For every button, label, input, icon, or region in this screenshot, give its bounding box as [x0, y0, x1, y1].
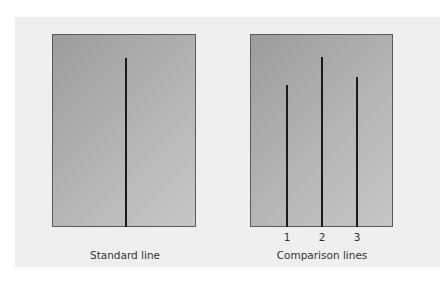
comparison-lines-label: Comparison lines — [270, 249, 374, 261]
comparison-number-1: 1 — [281, 231, 293, 243]
standard-line-label: Standard line — [75, 249, 175, 261]
comparison-card — [250, 34, 393, 227]
standard-line — [125, 58, 127, 227]
comparison-line-2 — [321, 57, 323, 227]
comparison-line-3 — [356, 77, 358, 227]
comparison-number-2: 2 — [316, 231, 328, 243]
standard-card — [52, 34, 196, 227]
comparison-number-3: 3 — [351, 231, 363, 243]
comparison-line-1 — [286, 85, 288, 227]
